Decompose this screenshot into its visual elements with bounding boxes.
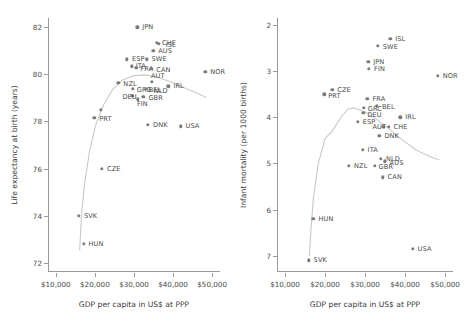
- data-point-label: FRA: [372, 95, 385, 103]
- y-tick-label: 74: [16, 211, 42, 220]
- y-tick-label: 3: [245, 67, 271, 76]
- x-tick-mark: [56, 273, 57, 277]
- x-tick-label: $10,000: [263, 280, 307, 289]
- data-point-label: DEU: [122, 93, 136, 101]
- data-point-label: SVK: [314, 256, 327, 264]
- data-point-label: NOR: [210, 68, 225, 76]
- data-point-label: IRL: [405, 113, 416, 121]
- y-tick-label: 6: [245, 205, 271, 214]
- y-tick-mark: [44, 263, 48, 264]
- y-axis-title: Life expectancy at birth (years): [10, 85, 19, 204]
- data-point-label: DNK: [384, 132, 399, 140]
- data-point-label: JPN: [142, 23, 153, 31]
- data-point-label: NZL: [123, 80, 136, 88]
- data-point-label: ITA: [368, 146, 378, 154]
- panel-life-expectancy: 727476788082$10,000$20,000$30,000$40,000…: [0, 0, 235, 324]
- x-tick-mark: [325, 273, 326, 277]
- data-point-label: AUT: [372, 123, 386, 131]
- x-tick-label: $50,000: [190, 280, 234, 289]
- y-axis-title: Infant mortality (per 1000 births): [239, 82, 248, 208]
- data-point-label: NOR: [443, 72, 458, 80]
- panel-infant-mortality: 234567$10,000$20,000$30,000$40,000$50,00…: [235, 0, 469, 324]
- x-tick-mark: [173, 273, 174, 277]
- data-point-label: SWE: [152, 55, 167, 63]
- y-tick-label: 5: [245, 159, 271, 168]
- data-point-label: AUT: [151, 72, 165, 80]
- data-point-label: CZE: [107, 165, 121, 173]
- data-point-label: GBR: [148, 94, 163, 102]
- data-point-label: HUN: [318, 215, 333, 223]
- y-tick-label: 7: [245, 251, 271, 260]
- y-tick-mark: [273, 163, 277, 164]
- y-tick-mark: [44, 74, 48, 75]
- y-tick-mark: [273, 25, 277, 26]
- x-tick-mark: [405, 273, 406, 277]
- y-tick-label: 4: [245, 113, 271, 122]
- data-point-label: NZL: [354, 162, 367, 170]
- y-tick-label: 80: [16, 70, 42, 79]
- x-tick-mark: [95, 273, 96, 277]
- y-tick-mark: [273, 210, 277, 211]
- data-point-label: FIN: [137, 100, 148, 108]
- data-point-label: IRL: [173, 82, 184, 90]
- data-point-label: ISL: [395, 35, 405, 43]
- x-tick-label: $20,000: [303, 280, 347, 289]
- data-point-label: BEL: [382, 103, 395, 111]
- y-tick-label: 78: [16, 117, 42, 126]
- data-point-label: USA: [418, 245, 432, 253]
- x-tick-label: $40,000: [383, 280, 427, 289]
- x-tick-mark: [285, 273, 286, 277]
- data-point-label: GBR: [379, 163, 394, 171]
- y-tick-label: 72: [16, 258, 42, 267]
- x-tick-label: $40,000: [151, 280, 195, 289]
- plot-area-infant-mortality: [277, 18, 453, 272]
- x-tick-mark: [365, 273, 366, 277]
- data-point-label: CHE: [394, 123, 408, 131]
- data-point-label: DNK: [153, 121, 168, 129]
- data-point-label: SVK: [84, 212, 97, 220]
- y-tick-mark: [44, 216, 48, 217]
- x-tick-label: $30,000: [343, 280, 387, 289]
- y-tick-label: 82: [16, 23, 42, 32]
- y-tick-label: 2: [245, 20, 271, 29]
- x-tick-label: $50,000: [423, 280, 467, 289]
- y-tick-mark: [44, 121, 48, 122]
- y-tick-label: 76: [16, 164, 42, 173]
- figure-two-scatter-panels: 727476788082$10,000$20,000$30,000$40,000…: [0, 0, 469, 324]
- y-tick-mark: [44, 27, 48, 28]
- data-point-label: AUS: [158, 47, 172, 55]
- y-tick-mark: [273, 256, 277, 257]
- x-tick-label: $30,000: [112, 280, 156, 289]
- x-tick-label: $10,000: [34, 280, 78, 289]
- y-tick-mark: [273, 117, 277, 118]
- data-point-label: SWE: [383, 43, 398, 51]
- data-point-label: PRT: [328, 92, 340, 100]
- y-tick-mark: [273, 71, 277, 72]
- data-point-label: HUN: [89, 240, 104, 248]
- y-tick-mark: [44, 169, 48, 170]
- x-tick-mark: [212, 273, 213, 277]
- data-point-label: CAN: [388, 173, 402, 181]
- x-tick-label: $20,000: [73, 280, 117, 289]
- x-axis-title: GDP per capita in US$ at PPP: [48, 300, 220, 309]
- x-axis-title: GDP per capita in US$ at PPP: [277, 300, 453, 309]
- data-point-label: FIN: [374, 65, 385, 73]
- data-point-label: PRT: [99, 115, 111, 123]
- x-tick-mark: [445, 273, 446, 277]
- data-point-label: USA: [186, 122, 200, 130]
- x-tick-mark: [134, 273, 135, 277]
